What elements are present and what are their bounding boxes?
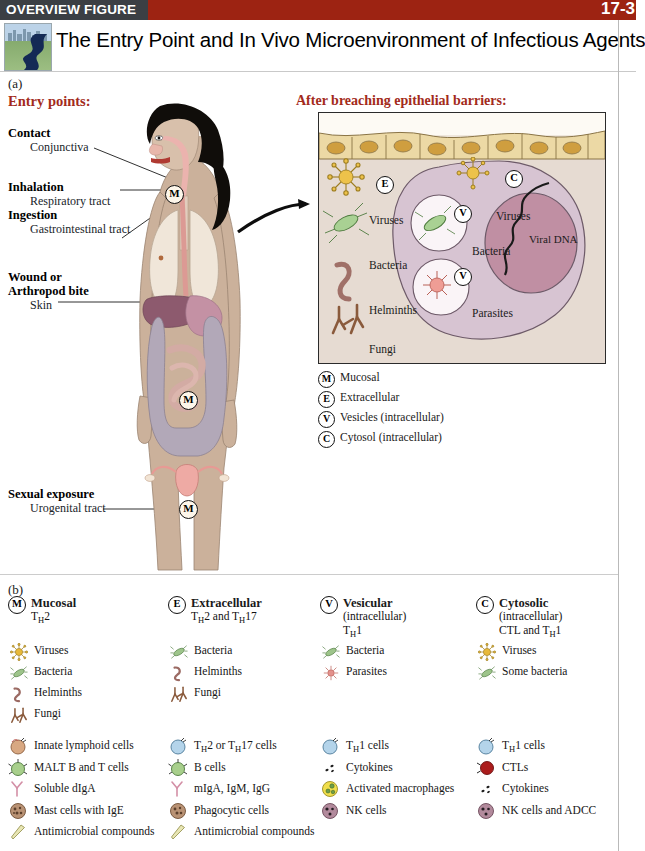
pathogen-label: Bacteria [194,644,232,656]
column-header-mucosal: MMucosalTH2 [8,596,168,642]
column-subtitle-1: (intracellular) [343,610,406,622]
column-title: Mucosal [31,596,76,611]
right-ovary [219,475,229,482]
pathogen-list: VirusesBacteriaHelminthsFungi [8,642,168,726]
skin-entry-dot [159,256,164,261]
antibody-icon [168,779,188,799]
key-circle-v: V [318,411,335,428]
effector-label: Activated macrophages [346,782,454,794]
antimicrobial-icon [8,822,28,842]
figure-title: The Entry Point and In Vivo Microenviron… [56,28,631,52]
pathogen-label: Bacteria [34,665,72,677]
fungus-icon [10,706,28,724]
effector-label: NK cells [346,804,387,816]
extracellular-virus-icon [328,159,364,195]
column-header-extracellular: EExtracellularTH2 and TH17 [168,596,328,642]
panel-b-column-cytosolic: CCytosolic(intracellular)CTL and TH1Viru… [476,596,636,822]
pathogen-list: VirusesSome bacteria [476,642,636,684]
body-marker-mucosal-gi: M [179,391,198,410]
pathogen-row: Fungi [168,684,328,705]
key-circle-c: C [318,431,335,448]
pathogen-row: Helminths [8,684,168,705]
effector-row: TH1 cells [320,736,480,758]
effector-label: Antimicrobial compounds [34,825,154,837]
micro-marker-extracellular: E [376,176,394,194]
cytokine-icon [320,758,340,778]
effector-row: Cytokines [320,758,480,780]
pathogen-row: Bacteria [168,642,328,663]
micro-marker-cytosol: C [505,170,523,188]
key-text-extracellular: Extracellular [340,391,399,403]
effector-row: mIgA, IgM, IgG [168,779,328,801]
virus-icon [478,643,496,661]
pathogen-label: Fungi [34,707,61,719]
effector-row: Antimicrobial compounds [168,822,328,844]
key-row-extracellular: E Extracellular [318,390,568,410]
micro-label-vesicle-parasites: Parasites [472,307,513,319]
panel-b-column-mucosal: MMucosalTH2VirusesBacteriaHelminthsFungi… [8,596,168,844]
column-subtitle-2: CTL and TH1 [499,624,561,639]
column-header-cytosolic: CCytosolic(intracellular)CTL and TH1 [476,596,636,642]
bacteria-icon [10,664,28,682]
pathogen-label: Parasites [346,665,387,677]
pathogen-label: Viruses [502,644,536,656]
micro-label-vesicle-bacteria: Bacteria [472,245,510,257]
effector-label: TH1 cells [346,739,389,754]
antibody-icon [8,779,28,799]
effector-row: NK cells [320,801,480,823]
effector-row: Mast cells with IgE [8,801,168,823]
column-circle-m: M [8,596,26,614]
effector-label: MALT B and T cells [34,761,129,773]
phagocyte-icon [168,801,188,821]
effector-label: TH2 or TH17 cells [194,739,277,754]
column-circle-v: V [320,596,338,614]
pupil [158,137,161,140]
panel-divider [0,574,618,575]
effector-label: NK cells and ADCC [502,804,596,816]
effector-row: TH2 or TH17 cells [168,736,328,758]
t-cell-icon [320,736,340,756]
innate-lymphoid-cell-icon [8,736,28,756]
virus-icon [10,643,28,661]
micro-marker-vesicle-1: V [454,205,472,223]
micro-label-cytosolic-viruses: Viruses [496,210,530,222]
effector-label: Mast cells with IgE [34,804,124,816]
effector-row: Soluble dIgA [8,779,168,801]
pathogen-label: Viruses [34,644,68,656]
column-subtitle-1: (intracellular) [499,610,562,622]
ctl-icon [476,758,496,778]
key-row-mucosal: M Mucosal [318,370,568,390]
effector-label: mIgA, IgM, IgG [194,782,270,794]
effector-row: Activated macrophages [320,779,480,801]
column-title: Vesicular [343,596,393,611]
effector-label: TH1 cells [502,739,545,754]
effector-row: B cells [168,758,328,780]
pathogen-label: Helminths [194,665,242,677]
pathogen-row: Bacteria [320,642,480,663]
column-title: Extracellular [191,596,262,611]
micro-label-viral-dna: Viral DNA [529,233,578,245]
panel-b-columns: MMucosalTH2VirusesBacteriaHelminthsFungi… [0,596,636,851]
pathogen-list: BacteriaParasites [320,642,480,684]
column-circle-c: C [476,596,494,614]
pointer-arrow-line [238,204,306,232]
effector-label: Antimicrobial compounds [194,825,314,837]
effector-row: Phagocytic cells [168,801,328,823]
effector-label: Phagocytic cells [194,804,269,816]
pathogen-label: Fungi [194,686,221,698]
helminth-icon [10,685,28,703]
t-cell-icon [168,736,188,756]
nk-cell-icon [320,801,340,821]
human-body-illustration: M M M [120,100,310,580]
breach-heading: After breaching epithelial barriers: [296,93,507,109]
pointer-arrow-head [298,199,310,209]
vesicular-parasite-icon [423,271,451,299]
kicker-label: OVERVIEW FIGURE [6,1,156,19]
micro-label-viruses: Viruses [369,214,403,226]
effector-row: TH1 cells [476,736,636,758]
extracellular-bacteria-icon [323,203,369,243]
uterus [176,465,199,497]
bacteria-icon [478,664,496,682]
effector-row: Innate lymphoid cells [8,736,168,758]
